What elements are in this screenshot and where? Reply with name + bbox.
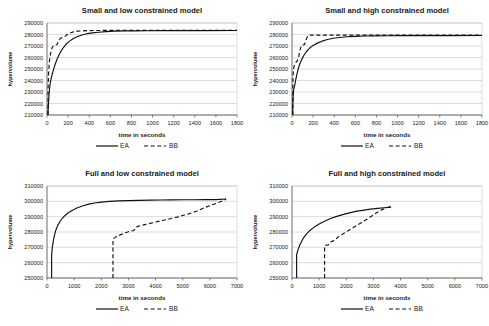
x-tick-label: 1400	[434, 120, 446, 126]
series-line-ea	[52, 199, 227, 278]
chart-legend: EABB	[96, 305, 178, 312]
y-tick-label: 290000	[269, 20, 288, 26]
y-tick-label: 280000	[269, 229, 288, 235]
x-tick-label: 400	[85, 120, 94, 126]
chart-svg-small-low: Small and low constrained model210000220…	[0, 0, 244, 163]
x-axis-title: time in seconds	[364, 294, 411, 301]
x-tick-label: 3000	[122, 283, 134, 289]
y-tick-label: 270000	[24, 43, 43, 49]
y-tick-label: 250000	[269, 275, 288, 281]
x-tick-label: 1600	[455, 120, 467, 126]
y-tick-label: 210000	[269, 112, 288, 118]
chart-panel-small-low: Small and low constrained model210000220…	[0, 0, 244, 163]
chart-panel-small-high: Small and high constrained model21000022…	[245, 0, 489, 163]
legend-label-bb: BB	[414, 142, 423, 149]
y-tick-label: 220000	[24, 101, 43, 107]
y-tick-label: 260000	[24, 55, 43, 61]
y-tick-label: 270000	[24, 244, 43, 250]
x-tick-label: 0	[290, 283, 293, 289]
y-axis-title: hypervolume	[252, 52, 258, 87]
y-tick-label: 310000	[269, 183, 288, 189]
x-tick-label: 2000	[340, 283, 352, 289]
x-tick-label: 1400	[189, 120, 201, 126]
series-line-ea	[48, 31, 237, 115]
chart-svg-small-high: Small and high constrained model21000022…	[245, 0, 489, 163]
y-tick-label: 250000	[269, 66, 288, 72]
y-tick-label: 240000	[269, 78, 288, 84]
chart-panel-full-high: Full and high constrained model250000260…	[245, 163, 489, 326]
y-tick-label: 260000	[269, 55, 288, 61]
y-tick-label: 280000	[269, 32, 288, 38]
legend-label-ea: EA	[365, 305, 374, 312]
x-tick-label: 0	[290, 120, 293, 126]
chart-legend: EABB	[341, 142, 423, 149]
x-tick-label: 200	[308, 120, 317, 126]
chart-svg-full-high: Full and high constrained model250000260…	[245, 163, 489, 326]
x-tick-label: 5000	[421, 283, 433, 289]
x-tick-label: 1600	[210, 120, 222, 126]
chart-svg-full-low: Full and low constrained model2500002600…	[0, 163, 244, 326]
x-tick-label: 600	[106, 120, 115, 126]
chart-title-small-high: Small and high constrained model	[325, 6, 449, 15]
x-tick-label: 1000	[313, 283, 325, 289]
x-tick-label: 200	[63, 120, 72, 126]
x-tick-label: 4000	[394, 283, 406, 289]
chart-legend: EABB	[96, 142, 178, 149]
y-tick-label: 240000	[24, 78, 43, 84]
chart-panel-full-low: Full and low constrained model2500002600…	[0, 163, 244, 326]
y-tick-label: 230000	[24, 89, 43, 95]
y-axis-title: hypervolume	[252, 215, 258, 250]
y-tick-label: 250000	[24, 66, 43, 72]
y-tick-label: 290000	[24, 20, 43, 26]
x-tick-label: 600	[351, 120, 360, 126]
x-tick-label: 0	[45, 120, 48, 126]
x-tick-label: 5000	[176, 283, 188, 289]
x-axis-title: time in seconds	[364, 131, 411, 138]
legend-label-ea: EA	[365, 142, 374, 149]
legend-label-ea: EA	[120, 305, 129, 312]
x-tick-label: 1000	[391, 120, 403, 126]
chart-title-small-low: Small and low constrained model	[82, 6, 202, 15]
y-axis-title: hypervolume	[7, 215, 13, 250]
chart-legend: EABB	[341, 305, 423, 312]
series-line-bb	[113, 199, 226, 278]
x-tick-label: 6000	[449, 283, 461, 289]
series-line-bb	[293, 35, 482, 115]
x-tick-label: 1200	[167, 120, 179, 126]
y-tick-label: 290000	[24, 214, 43, 220]
x-tick-label: 1000	[146, 120, 158, 126]
y-tick-label: 300000	[24, 198, 43, 204]
x-tick-label: 7000	[231, 283, 243, 289]
hypervolume-convergence-figure: Small and low constrained model210000220…	[0, 0, 489, 326]
y-tick-label: 280000	[24, 32, 43, 38]
x-tick-label: 0	[45, 283, 48, 289]
series-line-ea	[293, 36, 482, 115]
legend-label-bb: BB	[414, 305, 423, 312]
y-tick-label: 220000	[269, 101, 288, 107]
x-tick-label: 3000	[367, 283, 379, 289]
y-tick-label: 270000	[269, 244, 288, 250]
legend-label-ea: EA	[120, 142, 129, 149]
y-tick-label: 260000	[269, 260, 288, 266]
x-tick-label: 1200	[412, 120, 424, 126]
legend-label-bb: BB	[169, 142, 178, 149]
y-tick-label: 290000	[269, 214, 288, 220]
series-line-bb	[48, 30, 237, 115]
y-tick-label: 300000	[269, 198, 288, 204]
y-tick-label: 230000	[269, 89, 288, 95]
x-tick-label: 1800	[231, 120, 243, 126]
x-tick-label: 1000	[68, 283, 80, 289]
series-line-ea	[297, 207, 391, 278]
chart-title-full-high: Full and high constrained model	[329, 169, 446, 178]
chart-title-full-low: Full and low constrained model	[85, 169, 199, 178]
x-axis-title: time in seconds	[119, 131, 166, 138]
y-tick-label: 250000	[24, 275, 43, 281]
y-tick-label: 210000	[24, 112, 43, 118]
y-tick-label: 270000	[269, 43, 288, 49]
y-axis-title: hypervolume	[7, 52, 13, 87]
x-tick-label: 1800	[476, 120, 488, 126]
y-tick-label: 280000	[24, 229, 43, 235]
x-tick-label: 7000	[476, 283, 488, 289]
legend-label-bb: BB	[169, 305, 178, 312]
x-tick-label: 2000	[95, 283, 107, 289]
